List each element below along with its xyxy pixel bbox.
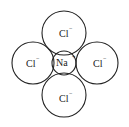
- ion-symbol: Cl: [93, 58, 103, 69]
- ion-symbol: Cl: [26, 58, 36, 69]
- ion-diagram: Cl − Cl − Cl − Cl − Na +: [0, 0, 129, 127]
- ion-symbol: Cl: [59, 93, 69, 104]
- ion-charge: −: [69, 90, 73, 96]
- chloride-ion-bottom: Cl −: [42, 73, 86, 117]
- ion-symbol: Cl: [59, 28, 69, 39]
- chloride-ion-right: Cl −: [76, 42, 118, 84]
- chloride-ion-left: Cl −: [12, 42, 54, 84]
- ion-charge: −: [36, 55, 40, 61]
- ion-charge: −: [103, 55, 107, 61]
- ion-symbol: Na: [56, 57, 68, 68]
- ion-charge: −: [69, 25, 73, 31]
